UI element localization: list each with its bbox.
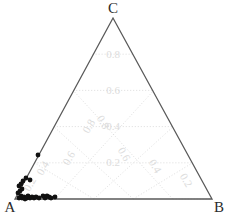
tick-labels-right-axis: 0.8 0.6 0.4 0.2: [95, 113, 195, 189]
data-point: [53, 195, 58, 200]
tick-label-c-0.2: 0.2: [106, 156, 120, 168]
data-point: [36, 153, 41, 158]
tick-label-c-0.6: 0.6: [106, 84, 120, 96]
tick-label-b-0.2: 0.2: [178, 171, 195, 189]
ternary-plot-canvas: 0.8 0.6 0.4 0.2 0.8 0.6 0.4 0.2 0.8 0.6 …: [0, 0, 237, 216]
data-point: [49, 196, 54, 201]
gridline-ac-0.2: [54, 90, 153, 199]
vertex-label-b: B: [214, 199, 224, 215]
tick-label-c-0.8: 0.8: [106, 48, 120, 60]
vertex-label-a: A: [5, 199, 16, 215]
ternary-plot-figure: 0.8 0.6 0.4 0.2 0.8 0.6 0.4 0.2 0.8 0.6 …: [0, 0, 237, 216]
tick-label-a-0.6: 0.6: [60, 149, 78, 167]
tick-label-a-0.8: 0.8: [80, 117, 98, 135]
vertex-label-c: C: [108, 0, 118, 16]
grid-lines-right-diagonal: [15, 90, 173, 199]
gridline-ab-0.2: [73, 90, 172, 199]
grid-lines-horizontal: [34, 54, 192, 163]
data-point: [28, 178, 33, 183]
tick-label-a-0.4: 0.4: [34, 159, 52, 177]
tick-labels-left-axis: 0.8 0.6 0.4 0.2: [21, 117, 98, 193]
tick-label-b-0.4: 0.4: [147, 157, 165, 175]
